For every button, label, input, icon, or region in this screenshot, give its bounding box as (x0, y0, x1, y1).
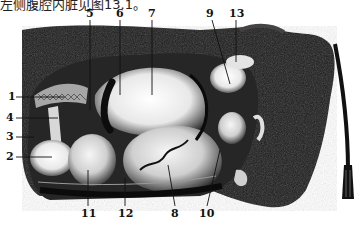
tail (335, 44, 354, 199)
label-2: 2 (6, 151, 14, 162)
label-11: 11 (81, 208, 96, 219)
label-10: 10 (199, 208, 214, 219)
label-4: 4 (6, 112, 14, 123)
label-5: 5 (86, 8, 94, 19)
label-1: 1 (8, 91, 16, 102)
label-3: 3 (6, 131, 14, 142)
label-8: 8 (171, 208, 179, 219)
label-9: 9 (206, 8, 214, 19)
label-12: 12 (118, 208, 133, 219)
anatomical-figure (0, 0, 361, 226)
label-13: 13 (229, 8, 244, 19)
label-7: 7 (148, 8, 156, 19)
label-6: 6 (116, 8, 124, 19)
